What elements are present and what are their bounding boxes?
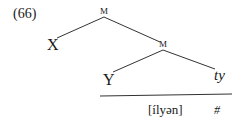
branch-root-m [104,17,160,42]
word-boundary-symbol: # [214,104,220,116]
syntax-tree-figure: (66) M X M Y ty [ílyən] # [0,0,244,129]
phonetic-form: [ílyən] [148,103,183,116]
root-node-label: M [100,7,108,16]
inner-node-label: M [159,40,167,49]
inner-right-leaf-label: ty [214,68,225,83]
inner-left-leaf-label: Y [103,72,115,88]
underline-rule [100,94,232,96]
left-leaf-label: X [47,37,59,53]
example-number: (66) [13,7,36,21]
branch-m-ty [163,50,215,69]
branch-root-x [57,17,104,38]
branch-m-y [113,50,163,72]
tree-branches [0,0,244,129]
